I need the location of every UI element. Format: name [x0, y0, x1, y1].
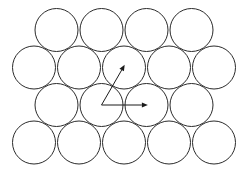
circle-group	[13, 9, 236, 165]
lattice-circle	[103, 121, 146, 164]
lattice-circle	[58, 121, 101, 164]
vector-group	[102, 65, 148, 108]
lattice-circle	[170, 84, 213, 127]
lattice-circle	[148, 121, 191, 164]
arrowhead-icon	[142, 102, 148, 107]
lattice-vector-a2	[102, 70, 122, 105]
lattice-circle	[35, 9, 78, 52]
lattice-circle	[80, 9, 123, 52]
lattice-circle	[193, 121, 236, 164]
lattice-circle	[125, 9, 168, 52]
hexagonal-lattice-diagram	[0, 0, 243, 177]
lattice-circle	[58, 46, 101, 89]
lattice-circle	[35, 84, 78, 127]
lattice-circle	[193, 46, 236, 89]
lattice-circle	[13, 46, 56, 89]
lattice-circle	[170, 9, 213, 52]
lattice-circle	[13, 121, 56, 164]
lattice-circle	[148, 46, 191, 89]
